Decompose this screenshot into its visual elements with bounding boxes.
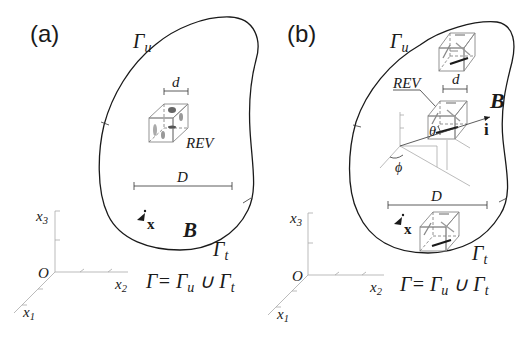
panel-b-label: (b)	[287, 20, 316, 47]
origin-label: O	[292, 268, 303, 284]
phi-label: ϕ	[395, 160, 402, 175]
body-label: B	[489, 88, 505, 113]
x3-axis-label: x3	[35, 208, 48, 226]
gamma-t-label: Γt	[471, 242, 488, 267]
panel-a-label: (a)	[30, 20, 59, 47]
rev-label: REV	[392, 75, 422, 91]
body-size-dimension: D	[388, 188, 487, 209]
gamma-u-label: Γu	[389, 30, 408, 55]
boundary-equation: Γ= Γu ∪ Γt	[145, 270, 236, 295]
rev-label: REV	[185, 135, 215, 151]
direction-label: i	[484, 120, 489, 139]
gamma-u-label: Γu	[132, 30, 151, 55]
boundary-tick	[243, 198, 251, 203]
body-size-label: D	[430, 188, 442, 204]
panel-a: (a) Γu d REV	[14, 17, 258, 322]
body-size-label: D	[176, 169, 188, 185]
x2-axis-label: x2	[114, 276, 128, 294]
point-marker-icon	[137, 213, 145, 221]
x2-axis-label: x2	[369, 279, 383, 297]
rev-size-dimension: d	[443, 71, 467, 93]
point-label: x	[147, 216, 155, 232]
coordinate-axes: x3 O x2 x1	[14, 208, 128, 322]
phi-arc	[390, 155, 403, 158]
body-boundary	[99, 17, 258, 250]
point-marker-icon	[394, 217, 402, 225]
boundary-equation: Γ= Γu ∪ Γt	[399, 273, 490, 298]
gamma-t-label: Γt	[212, 238, 229, 263]
rev-cube: d REV	[149, 74, 215, 151]
panel-b: (b) Γu REV d	[268, 20, 514, 324]
rev-figure: (a) Γu d REV	[0, 0, 526, 337]
rev-cube-top	[439, 33, 475, 71]
theta-label: θ	[429, 124, 436, 139]
rev-size-label: d	[172, 74, 180, 90]
x1-axis-label: x1	[22, 304, 35, 322]
body-label: B	[182, 218, 197, 242]
orientation-frame: θ ϕ i	[380, 112, 490, 186]
rev-size-label: d	[452, 71, 460, 87]
origin-label: O	[38, 265, 49, 281]
x1-axis-label: x1	[276, 306, 289, 324]
rev-leader-line	[420, 90, 436, 107]
rev-cube-bottom	[420, 212, 459, 251]
body-size-dimension: D	[134, 169, 232, 190]
point-label: x	[404, 221, 412, 237]
x3-axis-label: x3	[289, 210, 302, 228]
